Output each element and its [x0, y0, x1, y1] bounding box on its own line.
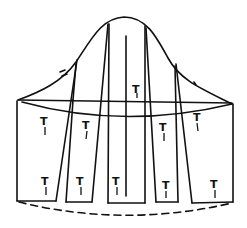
- grain-mark-strip-5-top: T: [193, 111, 201, 124]
- sleeve-pattern-diagram: T T T T T T T T T T: [0, 0, 247, 228]
- strip-4-right-edge: [175, 66, 178, 202]
- grain-mark-strip-1-bottom: T: [41, 175, 49, 188]
- sleeve-cap-curve: [18, 17, 232, 104]
- strip-5-left-edge: [176, 64, 192, 203]
- grain-mark-strip-5-bottom: T: [210, 178, 218, 191]
- grain-mark-strip-3-bottom: T: [112, 175, 120, 188]
- strip-5-bottom: [192, 202, 233, 203]
- new-hem-dashed-curve: [19, 202, 232, 215]
- grain-mark-strip-2-top: T: [82, 119, 90, 132]
- grain-mark-center: T: [132, 83, 140, 96]
- grain-mark-strip-4-bottom: T: [162, 179, 170, 192]
- grain-mark-strip-1-top: T: [40, 115, 48, 128]
- biceps-line: [18, 100, 232, 103]
- strip-2-right-edge: [92, 24, 108, 202]
- grain-mark-strip-2-bottom: T: [76, 175, 84, 188]
- strip-3-left-edge: [108, 24, 109, 203]
- grain-mark-strip-4-top: T: [159, 121, 167, 134]
